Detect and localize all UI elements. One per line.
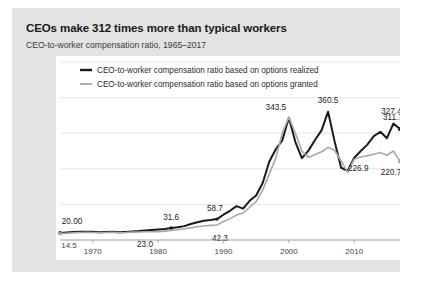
x-axis-tick-labels: 1970198019902000201014.5 — [61, 241, 363, 256]
data-label: 31.6 — [163, 213, 179, 222]
series-line-granted — [60, 117, 400, 233]
series-layer — [58, 112, 400, 236]
x-axis-tick-label: 1990 — [215, 247, 233, 256]
data-label: 23.0 — [137, 240, 153, 249]
x-axis-tick-label: 1970 — [84, 247, 102, 256]
line-chart: 0100200300400500 1970198019902000201014.… — [56, 56, 400, 260]
series-startpoint-granted — [58, 232, 62, 236]
data-label: 311.7 — [383, 113, 400, 122]
chart-card: CEOs make 312 times more than typical wo… — [12, 8, 400, 272]
series-marker — [169, 226, 172, 229]
legend-label: CEO-to-worker compensation ratio based o… — [97, 80, 318, 89]
x-axis-start-label: 14.5 — [61, 241, 77, 250]
data-label: 343.5 — [266, 103, 287, 112]
data-labels: 20.0023.031.642.358.7343.5360.5226.9327.… — [62, 96, 400, 249]
x-axis-tick-label: 2000 — [280, 247, 298, 256]
legend-label: CEO-to-worker compensation ratio based o… — [97, 66, 319, 75]
data-label: 20.00 — [62, 217, 83, 226]
page-title: CEOs make 312 times more than typical wo… — [26, 22, 287, 34]
data-label: 42.3 — [212, 234, 228, 243]
data-label: 226.9 — [348, 164, 369, 173]
plot-panel: 0100200300400500 1970198019902000201014.… — [56, 56, 400, 260]
chart-subtitle: CEO-to-worker compensation ratio, 1965–2… — [26, 40, 206, 50]
data-label: 58.7 — [207, 204, 223, 213]
x-axis-tick-label: 2010 — [345, 247, 363, 256]
data-label: 360.5 — [318, 96, 339, 105]
chart-legend: CEO-to-worker compensation ratio based o… — [80, 66, 319, 89]
series-marker — [215, 217, 218, 220]
data-label: 220.7 — [381, 168, 400, 177]
